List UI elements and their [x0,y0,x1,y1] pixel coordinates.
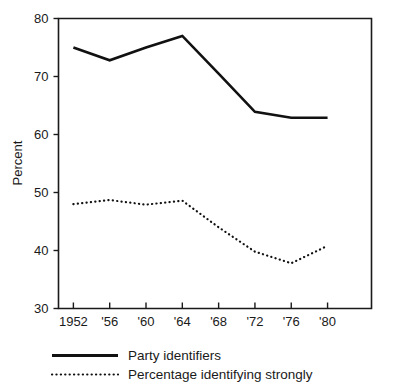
series-percentage-identifying-strongly [73,200,327,263]
legend-label-party-identifiers: Party identifiers [128,348,221,363]
line-chart-figure: 304050607080 1952'56'60'64'68'72'76'80 P… [0,0,394,388]
plot-frame [59,19,372,309]
y-axis-title: Percent [10,140,25,185]
legend: Party identifiers Percentage identifying… [52,348,313,382]
legend-label-percentage-identifying-strongly: Percentage identifying strongly [128,367,313,382]
y-axis-tick-label: 60 [34,127,48,142]
y-axis-tick-label: 80 [34,11,48,26]
y-axis-tick-labels: 304050607080 [34,11,48,316]
series-party-identifiers [73,36,327,118]
x-axis-tick-label: '64 [174,314,191,329]
x-axis-tick-label: 1952 [59,314,88,329]
x-axis-tick-labels: 1952'56'60'64'68'72'76'80 [59,314,336,329]
x-axis-tick-label: '60 [138,314,155,329]
x-axis-tick-label: '68 [210,314,227,329]
y-axis-tick-label: 50 [34,185,48,200]
x-axis-ticks [73,303,327,309]
x-axis-tick-label: '56 [101,314,118,329]
x-axis-tick-label: '72 [246,314,263,329]
x-axis-tick-label: '80 [319,314,336,329]
y-axis-tick-label: 30 [34,301,48,316]
data-series-group [73,36,327,263]
x-axis-tick-label: '76 [283,314,300,329]
chart-container: 304050607080 1952'56'60'64'68'72'76'80 P… [0,0,394,388]
y-axis-tick-label: 70 [34,69,48,84]
axis-frame-path [59,19,372,309]
y-axis-tick-label: 40 [34,243,48,258]
